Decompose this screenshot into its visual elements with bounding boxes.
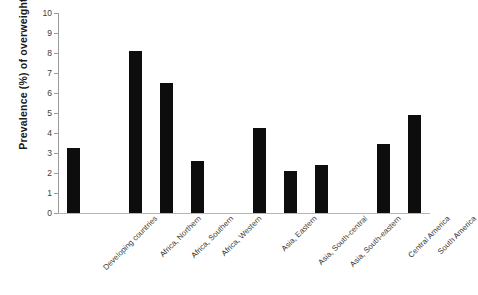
y-tick-label: 5	[47, 108, 52, 118]
y-tick-label: 2	[47, 168, 52, 178]
y-tick-label: 3	[47, 148, 52, 158]
y-tick-label: 4	[47, 128, 52, 138]
bar	[408, 115, 421, 213]
y-tick-label: 1	[47, 188, 52, 198]
y-tick-label: 10	[43, 8, 52, 18]
y-axis-title: Prevalence (%) of overweight	[17, 0, 29, 169]
bars-layer	[58, 13, 430, 213]
y-tick-label: 9	[47, 28, 52, 38]
bar	[160, 83, 173, 213]
bar	[129, 51, 142, 213]
x-axis-labels: Developing countriesAfrica, NorthernAfri…	[58, 214, 430, 295]
plot-area: 012345678910	[58, 13, 430, 213]
bar	[284, 171, 297, 213]
x-axis-tick-label: Asia, Eastern	[279, 214, 318, 253]
y-tick-label: 8	[47, 48, 52, 58]
bar	[253, 128, 266, 213]
bar	[315, 165, 328, 213]
bar	[191, 161, 204, 213]
bar	[67, 148, 80, 213]
bar	[377, 144, 390, 213]
y-tick-label: 0	[47, 208, 52, 218]
y-tick-label: 7	[47, 68, 52, 78]
x-axis-tick-label: Developing countries	[101, 214, 159, 272]
y-tick-label: 6	[47, 88, 52, 98]
